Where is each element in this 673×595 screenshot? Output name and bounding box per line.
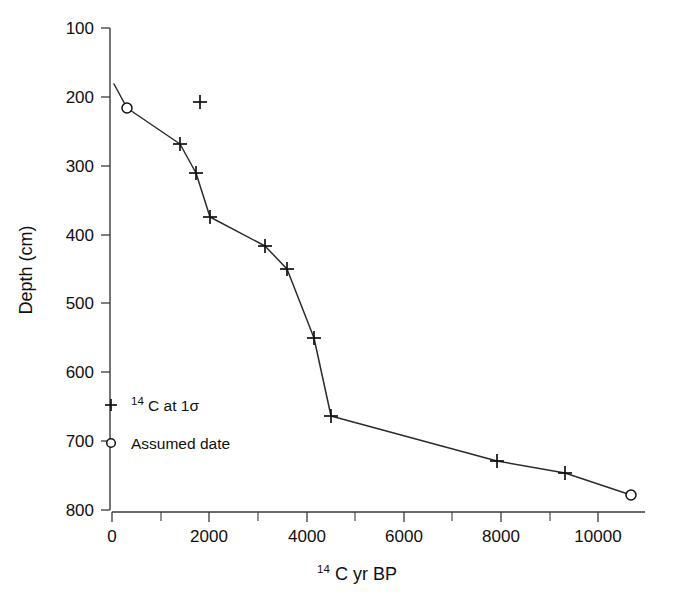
age-depth-chart-figure: 100 200 300 400 500 600 700 800 0 2000 (0, 0, 673, 595)
data-point-marker (324, 409, 338, 423)
data-point-marker (307, 331, 321, 345)
data-point-marker-circle (626, 490, 636, 500)
legend-entry-assumed: Assumed date (107, 435, 230, 452)
y-tick-label-700: 700 (66, 432, 94, 451)
y-tick-label-300: 300 (66, 157, 94, 176)
legend-label-assumed: Assumed date (131, 435, 230, 452)
x-axis-tick-labels: 0 2000 4000 6000 8000 10000 (107, 527, 621, 546)
x-tick-label-2000: 2000 (190, 527, 228, 546)
y-tick-label-800: 800 (66, 501, 94, 520)
chart-svg: 100 200 300 400 500 600 700 800 0 2000 (0, 0, 673, 595)
x-tick-label-10000: 10000 (574, 527, 621, 546)
x-axis-ticks (112, 512, 598, 522)
data-point-marker (490, 454, 504, 468)
data-point-marker (173, 137, 187, 151)
y-tick-label-600: 600 (66, 363, 94, 382)
x-tick-label-6000: 6000 (385, 527, 423, 546)
legend-label-14c-text: C at 1σ (148, 397, 199, 414)
data-point-marker (189, 166, 203, 180)
data-point-marker (203, 210, 217, 224)
y-tick-label-100: 100 (66, 19, 94, 38)
legend-label-14c: 14 C at 1σ (131, 391, 199, 414)
legend-circle-icon (107, 439, 116, 448)
data-markers-14c (173, 95, 572, 480)
legend-label-14c-superscript: 14 (131, 395, 144, 407)
data-point-marker-outlier (193, 95, 207, 109)
x-tick-label-0: 0 (107, 527, 116, 546)
y-tick-label-400: 400 (66, 226, 94, 245)
chart-legend: 14 C at 1σ Assumed date (105, 391, 230, 452)
legend-plus-icon (105, 399, 117, 411)
data-point-marker (558, 466, 572, 480)
x-axis-title-superscript: 14 (317, 563, 330, 575)
y-tick-label-200: 200 (66, 88, 94, 107)
y-tick-label-500: 500 (66, 294, 94, 313)
x-tick-label-4000: 4000 (288, 527, 326, 546)
y-axis-tick-labels: 100 200 300 400 500 600 700 800 (66, 19, 94, 520)
x-axis-title: 14 C yr BP (317, 557, 397, 584)
age-depth-model-line (114, 84, 631, 495)
y-axis-title-text: Depth (cm) (16, 225, 36, 314)
y-axis-ticks (101, 28, 110, 510)
legend-entry-14c: 14 C at 1σ (105, 391, 199, 414)
x-axis-title-text: C yr BP (335, 564, 397, 584)
data-point-marker-circle (122, 103, 132, 113)
y-axis-title: Depth (cm) (16, 225, 36, 314)
x-tick-label-8000: 8000 (482, 527, 520, 546)
